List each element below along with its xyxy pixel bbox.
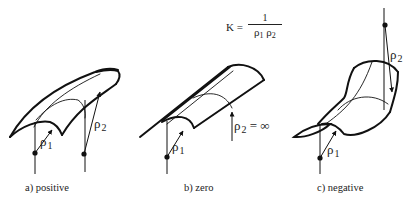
rho1-label-positive: ρ1 xyxy=(40,134,53,151)
caption-negative: c) negative xyxy=(317,182,363,193)
rho2-label-zero: ρ2 = ∞ xyxy=(234,118,270,135)
caption-positive: a) positive xyxy=(25,182,69,193)
formula-lhs: K = xyxy=(226,21,243,33)
rho1-label-zero: ρ1 xyxy=(172,139,185,156)
rho1-label-negative: ρ1 xyxy=(327,142,340,159)
gaussian-curvature-formula: K = 1 ρ1 ρ2 xyxy=(226,12,282,42)
caption-zero: b) zero xyxy=(184,182,213,193)
formula-denominator: ρ1 ρ2 xyxy=(254,26,276,42)
rho2-label-positive: ρ2 xyxy=(94,116,107,133)
rho2-label-negative: ρ2 xyxy=(390,47,403,64)
formula-numerator: 1 xyxy=(262,12,267,23)
formula-fraction: 1 ρ1 ρ2 xyxy=(248,12,282,42)
curvature-diagram xyxy=(0,0,410,204)
surface-negative xyxy=(294,61,398,137)
fraction-bar xyxy=(248,24,282,25)
